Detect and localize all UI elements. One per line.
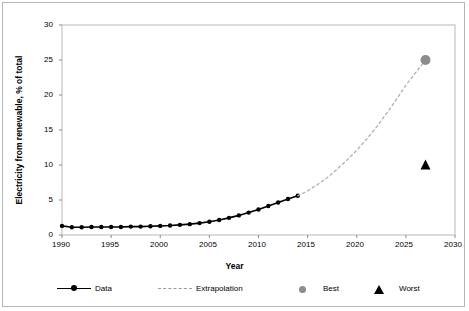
legend-circle-icon [285,282,319,294]
legend-triangle-icon [361,282,395,294]
x-axis-title: Year [3,261,466,271]
legend-label: Data [95,284,112,293]
legend-label: Worst [399,284,420,293]
legend-item-data: Data [57,279,112,297]
legend-line-solid-icon [57,282,91,294]
chart-container: Electricity from renewable, % of total 3… [2,2,465,307]
legend-label: Best [323,284,339,293]
legend-line-dashed-icon [158,282,192,294]
chart-legend: Data Extrapolation Best Worst [3,279,466,299]
legend-item-best: Best [285,279,339,297]
legend-item-extrapolation: Extrapolation [158,279,243,297]
legend-label: Extrapolation [196,284,243,293]
legend-item-worst: Worst [361,279,420,297]
